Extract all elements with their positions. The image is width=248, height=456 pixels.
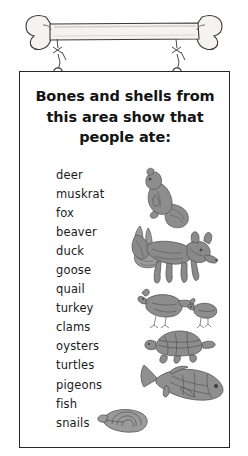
turtle-illustration (142, 326, 218, 364)
list-item: beaver (56, 223, 148, 242)
list-item: clams (56, 318, 148, 337)
list-item: muskrat (56, 185, 148, 204)
sign-heading: Bones and shells from this area show tha… (30, 86, 220, 148)
list-item: pigeons (56, 376, 148, 395)
bone-illustration (0, 0, 248, 80)
list-item: duck (56, 242, 148, 261)
list-item: turtles (56, 356, 148, 375)
sign-page: Bones and shells from this area show tha… (0, 0, 248, 456)
list-item: fish (56, 395, 148, 414)
fish-illustration (138, 359, 230, 409)
list-item: quail (56, 280, 148, 299)
hanging-assembly (0, 0, 248, 80)
sign-board: Bones and shells from this area show tha… (19, 71, 230, 448)
list-item: deer (56, 166, 148, 185)
list-item: snails (56, 414, 148, 433)
animal-list: deer muskrat fox beaver duck goose quail… (56, 166, 148, 433)
list-item: fox (56, 204, 148, 223)
heading-line-2: this area show that (30, 107, 220, 128)
heading-line-3: people ate: (30, 127, 220, 148)
quail-illustration (136, 287, 220, 331)
list-item: turkey (56, 299, 148, 318)
list-item: goose (56, 261, 148, 280)
list-item: oysters (56, 337, 148, 356)
heading-line-1: Bones and shells from (30, 86, 220, 107)
